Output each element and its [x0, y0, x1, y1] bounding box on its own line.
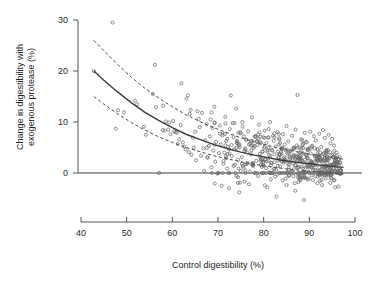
- scatter-point: [294, 128, 297, 131]
- scatter-point: [264, 167, 267, 170]
- upper-confidence-band-curve: [94, 40, 344, 159]
- scatter-point: [189, 108, 192, 111]
- x-tick-label: 100: [347, 228, 362, 238]
- scatter-point: [219, 143, 222, 146]
- scatter-point: [188, 112, 191, 115]
- scatter-point: [202, 147, 205, 150]
- scatter-point: [214, 160, 217, 163]
- scatter-point: [223, 151, 226, 154]
- scatter-point: [240, 156, 243, 159]
- scatter-point: [294, 189, 297, 192]
- y-axis: 0102030: [58, 15, 78, 178]
- scatter-point: [210, 111, 213, 114]
- scatter-point: [229, 94, 232, 97]
- scatter-point: [236, 181, 239, 184]
- scatter-point: [190, 153, 193, 156]
- scatter-point: [200, 111, 203, 114]
- scatter-point: [238, 191, 241, 194]
- scatter-point: [250, 116, 253, 119]
- data-points-group: [92, 21, 342, 202]
- scatter-point: [192, 146, 195, 149]
- scatter-point: [267, 128, 270, 131]
- scatter-point: [224, 115, 227, 118]
- scatter-point: [153, 63, 156, 66]
- scatter-point: [292, 175, 295, 178]
- x-tick-label: 40: [76, 228, 86, 238]
- x-tick-label: 90: [304, 228, 314, 238]
- scatter-point: [180, 82, 183, 85]
- scatter-point: [194, 130, 197, 133]
- scatter-point: [218, 124, 221, 127]
- scatter-point: [168, 121, 171, 124]
- scatter-point: [154, 106, 157, 109]
- scatter-point: [164, 120, 167, 123]
- scatter-point: [208, 135, 211, 138]
- scatter-point: [309, 130, 312, 133]
- y-tick-label: 30: [58, 15, 68, 25]
- scatter-point: [312, 135, 315, 138]
- scatter-point: [321, 129, 324, 132]
- scatter-point: [241, 125, 244, 128]
- scatter-point: [144, 133, 147, 136]
- scatter-point: [116, 109, 119, 112]
- scatter-point: [167, 128, 170, 131]
- scatter-point: [232, 136, 235, 139]
- scatter-point: [184, 148, 187, 151]
- scatter-point: [337, 185, 340, 188]
- scatter-point: [332, 144, 335, 147]
- scatter-point: [323, 136, 326, 139]
- scatter-point: [241, 120, 244, 123]
- scatter-point: [314, 139, 317, 142]
- scatter-point: [133, 99, 136, 102]
- scatter-point: [209, 118, 212, 121]
- scatter-point: [172, 119, 175, 122]
- scatter-point: [217, 152, 220, 155]
- scatter-point: [200, 154, 203, 157]
- x-tick-label: 80: [259, 228, 269, 238]
- scatter-point: [187, 151, 190, 154]
- scatter-point: [302, 198, 305, 201]
- scatter-point: [296, 93, 299, 96]
- scatter-point: [226, 167, 229, 170]
- scatter-point: [213, 105, 216, 108]
- scatter-point: [269, 120, 272, 123]
- scatter-point: [224, 144, 227, 147]
- y-tick-label: 0: [63, 168, 68, 178]
- scatter-point: [285, 125, 288, 128]
- scatter-point: [284, 177, 287, 180]
- scatter-point: [162, 104, 165, 107]
- scatter-point: [142, 125, 145, 128]
- scatter-point: [283, 143, 286, 146]
- scatter-point: [273, 161, 276, 164]
- x-tick-label: 60: [167, 228, 177, 238]
- scatter-point: [333, 149, 336, 152]
- scatter-point: [290, 134, 293, 137]
- scatter-point: [247, 130, 250, 133]
- scatter-point: [213, 182, 216, 185]
- scatter-point: [210, 166, 213, 169]
- scatter-point: [181, 141, 184, 144]
- scatter-point: [321, 184, 324, 187]
- scatter-point: [331, 137, 334, 140]
- y-axis-title-line-1: Change in digestibility with: [15, 44, 25, 150]
- scatter-point: [243, 180, 246, 183]
- scatter-point: [318, 132, 321, 135]
- scatter-point: [179, 124, 182, 127]
- scatter-point: [185, 97, 188, 100]
- scatter-point: [224, 122, 227, 125]
- scatter-point: [230, 155, 233, 158]
- scatter-point: [327, 133, 330, 136]
- scatter-point: [311, 179, 314, 182]
- scatter-point: [212, 149, 215, 152]
- y-tick-label: 20: [58, 66, 68, 76]
- scatter-point: [257, 175, 260, 178]
- x-tick-label: 50: [122, 228, 132, 238]
- scatter-point: [228, 128, 231, 131]
- x-axis-title: Control digestibility (%): [172, 260, 264, 270]
- scatter-point: [235, 107, 238, 110]
- scatter-point: [169, 133, 172, 136]
- scatter-point: [275, 195, 278, 198]
- scatter-point: [269, 178, 272, 181]
- scatter-point: [227, 187, 230, 190]
- scatter-point: [233, 122, 236, 125]
